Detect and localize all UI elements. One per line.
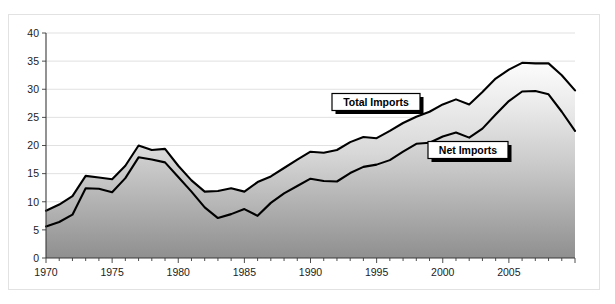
callout-label: Net Imports: [439, 144, 498, 156]
y-tick-label: 0: [33, 252, 39, 264]
y-axis-tick-labels: 0510152025303540: [27, 27, 39, 264]
y-tick-label: 10: [27, 196, 39, 208]
y-tick-label: 30: [27, 83, 39, 95]
callout-label: Total Imports: [343, 96, 409, 108]
x-tick-label: 1975: [100, 266, 124, 278]
x-tick-label: 1980: [167, 266, 191, 278]
y-tick-label: 35: [27, 55, 39, 67]
x-tick-label: 1990: [299, 266, 323, 278]
x-axis-tick-labels: 19701975198019851990199520002005: [34, 266, 520, 278]
x-tick-label: 1995: [365, 266, 389, 278]
area-chart: 0510152025303540 19701975198019851990199…: [0, 0, 615, 304]
x-tick-label: 2000: [431, 266, 455, 278]
y-tick-label: 40: [27, 27, 39, 39]
x-tick-label: 1985: [233, 266, 257, 278]
y-tick-label: 25: [27, 111, 39, 123]
y-tick-label: 15: [27, 167, 39, 179]
x-tick-label: 2005: [497, 266, 521, 278]
x-tick-label: 1970: [34, 266, 58, 278]
y-tick-label: 20: [27, 139, 39, 151]
y-tick-label: 5: [33, 224, 39, 236]
